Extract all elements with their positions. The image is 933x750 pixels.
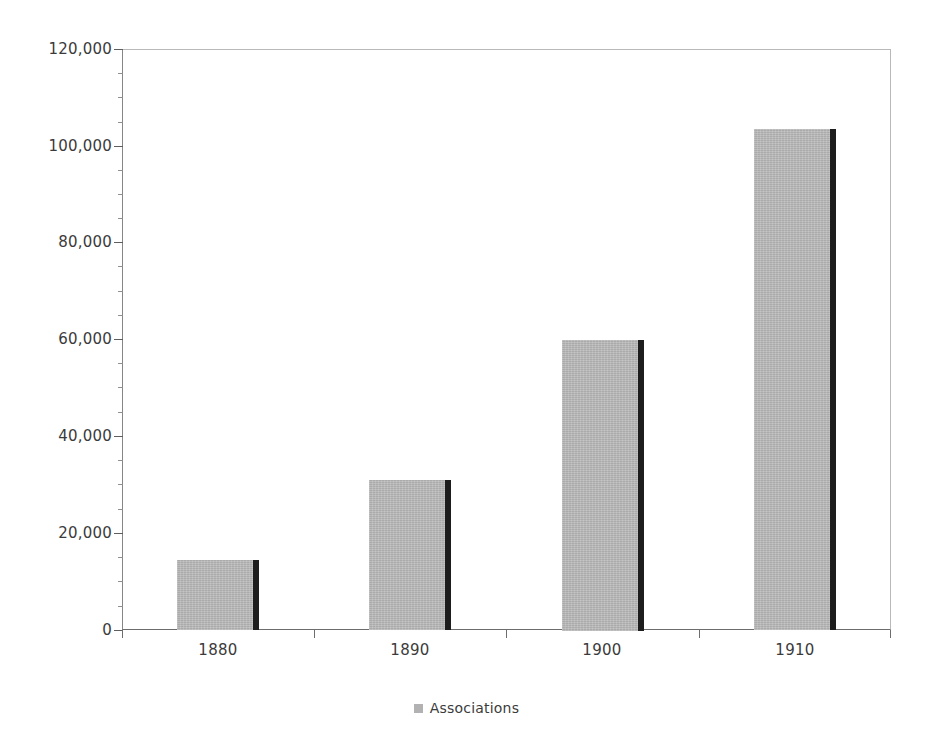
y-minor-tick xyxy=(118,606,123,607)
y-tick-mark-20000 xyxy=(114,533,123,534)
y-tick-80000: 80,000 xyxy=(0,233,112,251)
x-tick-label: 1890 xyxy=(390,641,429,659)
y-minor-tick xyxy=(118,412,123,413)
legend-swatch-associations xyxy=(414,704,423,713)
x-axis-label-1910: 1910 xyxy=(735,641,855,659)
x-axis-label-1880: 1880 xyxy=(158,641,278,659)
y-minor-tick xyxy=(118,291,123,292)
y-tick-120000: 120,000 xyxy=(0,40,112,58)
y-minor-tick xyxy=(118,484,123,485)
x-tick-boundary xyxy=(506,630,507,638)
x-tick-boundary xyxy=(699,630,700,638)
y-minor-tick xyxy=(118,97,123,98)
y-tick-mark-100000 xyxy=(114,146,123,147)
x-axis-label-1890: 1890 xyxy=(350,641,470,659)
bar-texture xyxy=(369,480,445,630)
y-minor-tick xyxy=(118,170,123,171)
y-minor-tick xyxy=(118,509,123,510)
bar-texture xyxy=(562,340,638,631)
y-tick-label-0: 0 xyxy=(12,621,112,639)
y-tick-label-20000: 20,000 xyxy=(12,524,112,542)
x-tick-boundary xyxy=(122,630,123,638)
y-tick-20000: 20,000 xyxy=(0,524,112,542)
y-minor-tick xyxy=(118,315,123,316)
y-tick-0: 0 xyxy=(0,621,112,639)
bar-1900 xyxy=(562,340,644,631)
chart-legend: Associations xyxy=(0,700,933,716)
x-axis-label-1900: 1900 xyxy=(542,641,662,659)
x-tick-label: 1910 xyxy=(775,641,814,659)
y-minor-tick xyxy=(118,73,123,74)
y-tick-mark-120000 xyxy=(114,49,123,50)
y-minor-tick xyxy=(118,557,123,558)
y-tick-60000: 60,000 xyxy=(0,330,112,348)
y-minor-tick xyxy=(118,581,123,582)
bar-chart: 120,000 100,000 80,000 60,000 40,000 20,… xyxy=(0,0,933,750)
y-minor-tick xyxy=(118,363,123,364)
y-tick-label-40000: 40,000 xyxy=(12,427,112,445)
bar-texture xyxy=(754,129,830,630)
y-minor-tick xyxy=(118,122,123,123)
x-tick-boundary xyxy=(890,630,891,638)
y-minor-tick xyxy=(118,194,123,195)
bar-1880 xyxy=(177,560,259,630)
y-tick-100000: 100,000 xyxy=(0,137,112,155)
y-tick-mark-40000 xyxy=(114,436,123,437)
x-tick-boundary xyxy=(314,630,315,638)
bar-1890 xyxy=(369,480,451,630)
bar-1910 xyxy=(754,129,836,630)
x-tick-label: 1880 xyxy=(198,641,237,659)
x-tick-label: 1900 xyxy=(582,641,621,659)
legend-label-associations: Associations xyxy=(430,700,519,716)
y-tick-mark-60000 xyxy=(114,339,123,340)
y-tick-label-120000: 120,000 xyxy=(12,40,112,58)
y-minor-tick xyxy=(118,218,123,219)
y-tick-label-100000: 100,000 xyxy=(12,137,112,155)
y-minor-tick xyxy=(118,387,123,388)
y-minor-tick xyxy=(118,266,123,267)
y-minor-tick xyxy=(118,460,123,461)
y-tick-label-80000: 80,000 xyxy=(12,233,112,251)
bar-texture xyxy=(177,560,253,630)
y-tick-mark-80000 xyxy=(114,242,123,243)
y-tick-40000: 40,000 xyxy=(0,427,112,445)
y-tick-label-60000: 60,000 xyxy=(12,330,112,348)
